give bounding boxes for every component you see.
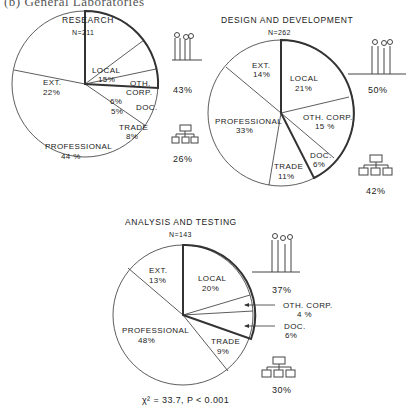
org-chart-icon-design	[359, 155, 392, 175]
design-prof-value: 33%	[236, 126, 253, 135]
design-title: DESIGN AND DEVELOPMENT	[221, 16, 353, 25]
design-ext-label: EXT.	[252, 61, 271, 70]
design-n: N=262	[268, 28, 291, 37]
analysis-people-pct: 37%	[272, 286, 292, 295]
design-oth-label: OTH. CORP.	[303, 113, 353, 122]
research-oth-label2: CORP.	[126, 88, 152, 97]
analysis-prof-label: PROFESSIONAL	[122, 326, 189, 335]
chi-square-stat: χ² = 33.7, P < 0.001	[142, 396, 229, 405]
design-doc-value: 6%	[313, 160, 325, 169]
research-trade-value: 8%	[126, 132, 138, 141]
research-doc-label: DOC.	[136, 103, 158, 112]
design-doc-label: DOC.	[310, 151, 332, 160]
design-trade-label: TRADE	[274, 162, 303, 171]
analysis-doc-value: 6%	[285, 331, 297, 340]
design-local-value: 21%	[295, 84, 312, 93]
analysis-oth-label: OTH. CORP.	[283, 301, 333, 310]
analysis-trade-label: TRADE	[211, 337, 240, 346]
org-chart-icon-analysis	[262, 357, 295, 377]
design-prof-label: PROFESSIONAL	[215, 117, 282, 126]
research-local-label: LOCAL	[92, 66, 120, 75]
research-prof-value: 44 %	[61, 152, 81, 161]
analysis-oth-value: 4 %	[297, 310, 312, 319]
research-doc-value: 5%	[111, 107, 123, 116]
analysis-local-value: 20%	[202, 284, 219, 293]
research-n: N=211	[72, 28, 94, 37]
research-ext-value: 22%	[43, 88, 60, 97]
pie-charts-graphic	[0, 0, 410, 410]
design-org-pct: 42%	[366, 187, 386, 196]
analysis-trade-value: 9%	[217, 347, 229, 356]
analysis-local-label: LOCAL	[198, 274, 226, 283]
research-prof-label: PROFESSIONAL	[45, 142, 112, 151]
analysis-ext-value: 13%	[149, 276, 166, 285]
research-org-pct: 26%	[173, 155, 193, 164]
people-icon-analysis	[252, 234, 300, 273]
design-oth-value: 15 %	[315, 122, 335, 131]
design-trade-value: 11%	[278, 172, 295, 181]
org-chart-icon-research	[172, 125, 198, 143]
design-people-pct: 50%	[368, 86, 388, 95]
people-icon-design	[348, 40, 406, 75]
design-ext-value: 14%	[253, 70, 270, 79]
research-people-pct: 43%	[173, 86, 193, 95]
research-ext-label: EXT.	[43, 78, 62, 87]
analysis-ext-label: EXT.	[149, 266, 168, 275]
research-oth-value: 6%	[110, 97, 122, 106]
research-oth-label: OTH.	[130, 79, 151, 88]
design-local-label: LOCAL	[290, 74, 318, 83]
analysis-title: ANALYSIS AND TESTING	[125, 218, 237, 227]
research-trade-label: TRADE	[119, 123, 148, 132]
people-icon-research	[172, 33, 202, 61]
analysis-prof-value: 48%	[138, 336, 155, 345]
research-title: RESEARCH	[62, 16, 114, 25]
research-local-value: 15%	[98, 75, 115, 84]
analysis-n: N=143	[169, 230, 192, 239]
analysis-org-pct: 30%	[272, 386, 292, 395]
analysis-doc-label: DOC.	[284, 322, 306, 331]
